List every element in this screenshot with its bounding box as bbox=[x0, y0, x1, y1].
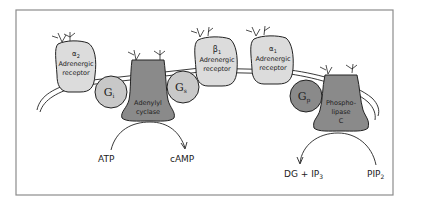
adrenergic-signaling-diagram: α2 Adrenergic receptor Gi Adenylyl cycla… bbox=[0, 0, 421, 205]
svg-text:Adrenergic: Adrenergic bbox=[199, 56, 235, 64]
svg-text:Adrenergic: Adrenergic bbox=[255, 55, 291, 63]
gs-protein: Gs bbox=[167, 71, 199, 103]
svg-text:receptor: receptor bbox=[203, 65, 231, 73]
effector-label-line1: Adenylyl bbox=[134, 99, 162, 107]
svg-text:lipase: lipase bbox=[331, 108, 350, 116]
svg-text:C: C bbox=[339, 117, 344, 125]
product-dg-ip3: DG + IP3 bbox=[284, 169, 323, 180]
receptor-label-line2: receptor bbox=[62, 69, 90, 77]
effector-label-line2: cyclase bbox=[136, 108, 160, 116]
gp-protein: Gp bbox=[290, 80, 322, 112]
substrate-atp: ATP bbox=[98, 154, 115, 164]
gi-protein: Gi bbox=[95, 76, 127, 108]
svg-text:receptor: receptor bbox=[259, 64, 287, 72]
svg-text:Phospho-: Phospho- bbox=[326, 99, 357, 107]
product-camp: cAMP bbox=[170, 154, 195, 164]
receptor-label-line1: Adrenergic bbox=[58, 60, 94, 68]
